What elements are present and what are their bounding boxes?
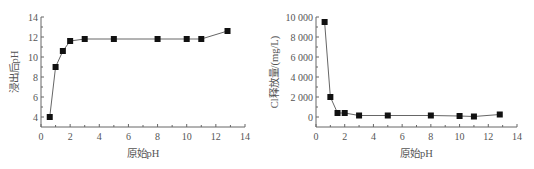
y-axis-label: Cl释放量/(mg/L) bbox=[268, 35, 281, 108]
x-tick-label: 12 bbox=[483, 131, 493, 142]
data-point-marker bbox=[385, 113, 391, 119]
y-tick-label: 8 bbox=[33, 72, 38, 83]
x-tick-label: 14 bbox=[512, 131, 522, 142]
x-tick-label: 4 bbox=[97, 131, 102, 142]
data-point-marker bbox=[327, 94, 333, 100]
data-point-marker bbox=[471, 114, 477, 120]
cl-release-plot: 0246810121402 0004 0006 0008 00010 000原始… bbox=[267, 0, 534, 169]
x-tick-label: 14 bbox=[240, 131, 250, 142]
y-tick-label: 0 bbox=[308, 112, 313, 123]
x-tick-label: 0 bbox=[39, 131, 44, 142]
data-point-marker bbox=[82, 36, 88, 42]
cl-release-chart: 0246810121402 0004 0006 0008 00010 000原始… bbox=[267, 0, 534, 169]
leached-ph-plot: 02468101214468101214原始pH浸出后pH bbox=[0, 0, 267, 169]
data-point-marker bbox=[60, 48, 66, 54]
data-point-marker bbox=[198, 36, 204, 42]
y-tick-label: 4 bbox=[33, 112, 38, 123]
x-tick-label: 6 bbox=[400, 131, 405, 142]
data-point-marker bbox=[47, 114, 53, 120]
data-point-marker bbox=[53, 64, 59, 70]
data-point-marker bbox=[335, 110, 341, 116]
data-point-marker bbox=[322, 19, 328, 25]
x-axis-label: 原始pH bbox=[400, 147, 433, 159]
leached-ph-chart: 02468101214468101214原始pH浸出后pH bbox=[0, 0, 267, 169]
data-point-marker bbox=[67, 38, 73, 44]
y-axis-label: 浸出后pH bbox=[8, 50, 20, 93]
x-tick-label: 4 bbox=[371, 131, 376, 142]
y-tick-label: 4 000 bbox=[291, 72, 314, 83]
x-tick-label: 2 bbox=[68, 131, 73, 142]
series-line bbox=[325, 22, 500, 117]
x-tick-label: 10 bbox=[182, 131, 192, 142]
y-tick-label: 6 000 bbox=[291, 52, 314, 63]
data-point-marker bbox=[356, 113, 362, 119]
x-tick-label: 10 bbox=[455, 131, 465, 142]
x-axis-label: 原始pH bbox=[127, 147, 160, 159]
y-tick-label: 12 bbox=[28, 32, 38, 43]
data-point-marker bbox=[111, 36, 117, 42]
x-tick-label: 12 bbox=[211, 131, 221, 142]
x-tick-label: 0 bbox=[314, 131, 319, 142]
x-tick-label: 8 bbox=[428, 131, 433, 142]
y-tick-label: 6 bbox=[33, 92, 38, 103]
series-line bbox=[50, 31, 228, 117]
data-point-marker bbox=[428, 113, 434, 119]
data-point-marker bbox=[497, 112, 503, 118]
y-tick-label: 10 bbox=[28, 52, 38, 63]
y-tick-label: 2 000 bbox=[291, 92, 314, 103]
data-point-marker bbox=[342, 110, 348, 116]
x-tick-label: 2 bbox=[342, 131, 347, 142]
data-point-marker bbox=[155, 36, 161, 42]
data-point-marker bbox=[184, 36, 190, 42]
x-tick-label: 8 bbox=[155, 131, 160, 142]
data-point-marker bbox=[225, 28, 231, 34]
y-tick-label: 8 000 bbox=[291, 32, 314, 43]
y-tick-label: 10 000 bbox=[286, 12, 314, 23]
y-tick-label: 14 bbox=[28, 12, 38, 23]
data-point-marker bbox=[457, 113, 463, 119]
x-tick-label: 6 bbox=[126, 131, 131, 142]
